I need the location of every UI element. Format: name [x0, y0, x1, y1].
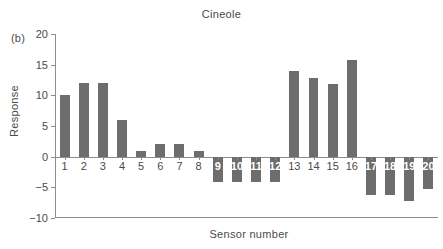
x-tick-label: 13 — [288, 160, 300, 172]
x-tick-label: 10 — [231, 160, 243, 172]
x-tick-label: 9 — [215, 160, 221, 172]
y-tick-mark — [51, 187, 55, 188]
y-tick-label: 0 — [42, 151, 48, 163]
x-tick-label: 1 — [62, 160, 68, 172]
x-tick-label: 12 — [269, 160, 281, 172]
bar — [174, 144, 184, 156]
y-axis-spine — [55, 34, 56, 218]
y-tick-mark — [51, 65, 55, 66]
bar — [117, 120, 127, 157]
x-tick-label: 17 — [365, 160, 377, 172]
y-tick-mark — [51, 95, 55, 96]
x-axis-spine — [55, 217, 438, 218]
x-tick-label: 11 — [250, 160, 262, 172]
bar — [328, 84, 338, 157]
y-tick-mark — [51, 126, 55, 127]
plot-area: 20151050−5−10 12345678910111213141516171… — [55, 34, 438, 218]
bar — [289, 71, 299, 156]
bar — [98, 83, 108, 157]
x-tick-label: 15 — [327, 160, 339, 172]
x-tick-label: 16 — [346, 160, 358, 172]
y-tick-label: −5 — [35, 181, 48, 193]
x-tick-label: 20 — [422, 160, 434, 172]
bar — [155, 144, 165, 156]
figure: (b) Cineole Response Sensor number 20151… — [0, 0, 443, 249]
bar — [79, 83, 89, 157]
x-tick-label: 2 — [81, 160, 87, 172]
bar — [347, 60, 357, 157]
x-tick-label: 5 — [138, 160, 144, 172]
y-axis-label: Response — [8, 76, 20, 146]
x-tick-label: 4 — [119, 160, 125, 172]
bar — [309, 78, 319, 157]
x-tick-label: 8 — [196, 160, 202, 172]
zero-baseline — [55, 157, 438, 158]
y-tick-label: −10 — [29, 212, 48, 224]
y-tick-label: 10 — [36, 89, 48, 101]
y-tick-mark — [51, 218, 55, 219]
x-tick-label: 7 — [176, 160, 182, 172]
x-tick-label: 18 — [384, 160, 396, 172]
x-tick-label: 3 — [100, 160, 106, 172]
x-axis-label: Sensor number — [55, 228, 443, 240]
chart-title: Cineole — [0, 8, 443, 20]
y-tick-label: 20 — [36, 28, 48, 40]
panel-label: (b) — [11, 32, 25, 44]
x-tick-label: 6 — [157, 160, 163, 172]
bar — [60, 95, 70, 156]
y-tick-label: 15 — [36, 59, 48, 71]
y-tick-mark — [51, 34, 55, 35]
x-tick-label: 19 — [403, 160, 415, 172]
y-tick-label: 5 — [42, 120, 48, 132]
x-tick-label: 14 — [307, 160, 319, 172]
